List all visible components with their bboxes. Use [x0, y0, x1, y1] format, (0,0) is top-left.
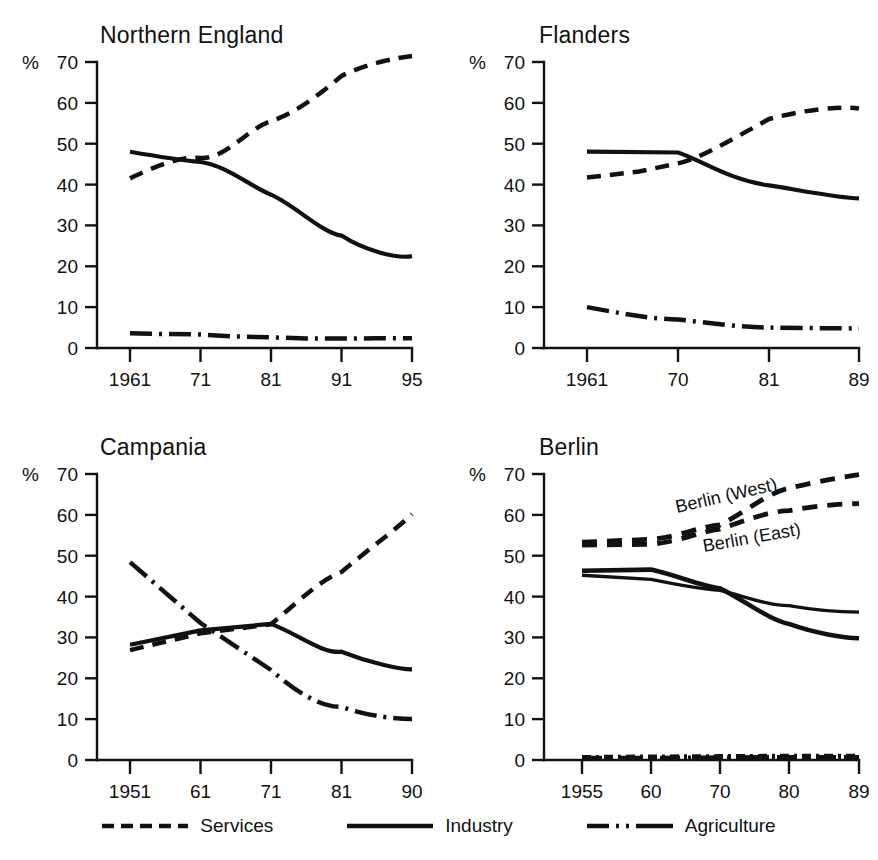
x-tick-label-3: 81 — [331, 781, 352, 802]
x-tick-label-3: 91 — [331, 369, 352, 390]
y-tick-label-40: 40 — [504, 175, 525, 196]
axis-flanders — [532, 62, 859, 362]
dash-dot-line-icon — [587, 819, 673, 833]
y-tick-label-60: 60 — [57, 93, 78, 114]
y-tick-label-10: 10 — [504, 709, 525, 730]
series-line-industry — [130, 152, 412, 257]
solid-line-icon — [347, 819, 433, 833]
panel-campania: Campania % 70 60 50 — [0, 420, 439, 820]
x-tick-label-4: 90 — [401, 781, 422, 802]
series-line-industry — [130, 624, 412, 670]
series-line-services — [130, 514, 412, 650]
axis-northern-england — [85, 62, 412, 362]
legend-label-services: Services — [200, 815, 273, 837]
annotation-berlin-west: Berlin (West) — [673, 474, 779, 517]
y-tick-label-0: 0 — [514, 750, 525, 771]
y-tick-label-70: 70 — [57, 464, 78, 485]
figure-caption-cropped — [0, 848, 878, 860]
y-axis-unit: % — [22, 464, 39, 485]
y-tick-label-0: 0 — [67, 338, 78, 359]
series-group-northern-england — [130, 56, 412, 339]
y-tick-label-50: 50 — [57, 134, 78, 155]
series-line-agriculture — [130, 562, 412, 719]
plot-berlin: % 70 60 50 40 30 20 10 0 1955 60 70 80 8… — [439, 420, 878, 820]
figure-root: Northern England — [0, 0, 878, 860]
y-tick-label-20: 20 — [504, 668, 525, 689]
x-tick-label-1: 70 — [667, 369, 688, 390]
x-tick-label-0: 1951 — [109, 781, 151, 802]
plot-flanders: % 70 60 50 40 30 20 10 0 1961 70 81 89 — [439, 8, 878, 408]
y-tick-label-40: 40 — [57, 587, 78, 608]
axis-berlin — [532, 474, 859, 774]
y-tick-label-70: 70 — [57, 52, 78, 73]
series-line-agriculture — [587, 307, 859, 328]
y-tick-label-40: 40 — [57, 175, 78, 196]
y-axis-unit: % — [22, 52, 39, 73]
y-tick-label-30: 30 — [504, 627, 525, 648]
y-tick-label-10: 10 — [57, 709, 78, 730]
x-tick-label-1: 71 — [190, 369, 211, 390]
series-line-industry-west — [582, 570, 859, 639]
series-line-agriculture — [130, 333, 412, 338]
chart-legend: Services Industry Agriculture — [0, 806, 878, 846]
x-tick-label-2: 71 — [260, 781, 281, 802]
y-axis-unit: % — [469, 52, 486, 73]
x-tick-label-0: 1961 — [109, 369, 151, 390]
x-tick-label-1: 61 — [190, 781, 211, 802]
y-tick-label-60: 60 — [504, 505, 525, 526]
plot-campania: % 70 60 50 40 30 20 10 0 1951 61 71 81 9… — [0, 420, 439, 820]
series-group-campania — [130, 514, 412, 719]
x-tick-label-2: 70 — [709, 781, 730, 802]
x-tick-label-1: 60 — [640, 781, 661, 802]
x-tick-label-0: 1955 — [561, 781, 603, 802]
y-tick-label-60: 60 — [504, 93, 525, 114]
legend-label-agriculture: Agriculture — [685, 815, 776, 837]
series-line-services — [587, 108, 859, 178]
series-group-berlin — [582, 475, 859, 759]
x-tick-label-0: 1961 — [566, 369, 608, 390]
series-group-flanders — [587, 108, 859, 329]
dashed-line-icon — [102, 819, 188, 833]
y-tick-label-30: 30 — [57, 215, 78, 236]
y-tick-label-10: 10 — [504, 297, 525, 318]
y-tick-label-0: 0 — [514, 338, 525, 359]
y-tick-label-10: 10 — [57, 297, 78, 318]
y-tick-label-30: 30 — [504, 215, 525, 236]
y-tick-label-0: 0 — [67, 750, 78, 771]
y-tick-label-30: 30 — [57, 627, 78, 648]
y-tick-label-20: 20 — [504, 256, 525, 277]
x-tick-label-4: 95 — [401, 369, 422, 390]
y-axis-unit: % — [469, 464, 486, 485]
series-line-industry-east — [582, 575, 859, 612]
panel-flanders: Flanders % 70 60 50 40 — [439, 8, 878, 408]
y-tick-label-50: 50 — [57, 546, 78, 567]
x-tick-label-4: 89 — [848, 781, 869, 802]
plot-northern-england: % 70 60 50 40 30 20 10 0 1961 71 81 91 9… — [0, 8, 439, 408]
legend-item-agriculture: Agriculture — [587, 815, 776, 837]
figure-top-cropped-text — [0, 0, 878, 8]
x-tick-label-3: 80 — [778, 781, 799, 802]
y-tick-label-70: 70 — [504, 52, 525, 73]
x-tick-label-2: 81 — [260, 369, 281, 390]
x-tick-label-2: 81 — [758, 369, 779, 390]
y-tick-label-20: 20 — [57, 668, 78, 689]
y-tick-label-70: 70 — [504, 464, 525, 485]
series-line-industry — [587, 152, 859, 199]
panel-northern-england: Northern England — [0, 8, 439, 408]
legend-label-industry: Industry — [445, 815, 513, 837]
y-tick-label-50: 50 — [504, 546, 525, 567]
y-tick-label-40: 40 — [504, 587, 525, 608]
panel-berlin: Berlin % 70 60 50 — [439, 420, 878, 820]
legend-item-industry: Industry — [347, 815, 513, 837]
legend-item-services: Services — [102, 815, 273, 837]
x-tick-label-3: 89 — [848, 369, 869, 390]
y-tick-label-20: 20 — [57, 256, 78, 277]
y-tick-label-50: 50 — [504, 134, 525, 155]
y-tick-label-60: 60 — [57, 505, 78, 526]
